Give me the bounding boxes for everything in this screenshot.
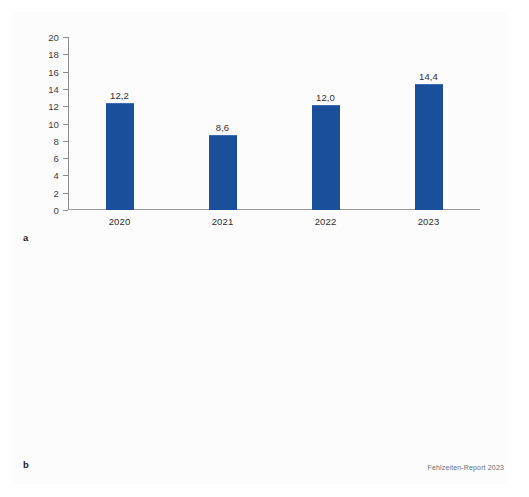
x-axis-category-label: 2022 xyxy=(315,216,337,227)
bar-group: 12,22020 xyxy=(68,37,171,210)
y-axis-tick-label: 2 xyxy=(54,187,59,198)
y-axis-tick-label: 14 xyxy=(48,83,59,94)
y-axis-tick-label: 18 xyxy=(48,49,59,60)
y-axis-tick-label: 12 xyxy=(48,101,59,112)
y-axis-tick-label: 10 xyxy=(48,118,59,129)
y-axis-tick-label: 20 xyxy=(48,32,59,43)
bar-value-label: 8,6 xyxy=(216,122,230,133)
bar-value-label: 14,4 xyxy=(419,71,438,82)
bar[interactable]: 12,2 xyxy=(106,103,134,210)
subfigure-label-a: a xyxy=(23,232,28,243)
x-axis-category-label: 2023 xyxy=(418,216,440,227)
y-axis-tick-label: 8 xyxy=(54,135,59,146)
bar[interactable]: 12,0 xyxy=(312,105,340,210)
bar-value-label: 12,0 xyxy=(316,92,335,103)
bar[interactable]: 8,6 xyxy=(209,135,237,210)
bar[interactable]: 14,4 xyxy=(415,84,443,210)
y-axis-tick-label: 6 xyxy=(54,153,59,164)
x-axis-category-label: 2021 xyxy=(212,216,234,227)
subfigure-label-b: b xyxy=(23,459,29,470)
y-axis-tick-label: 4 xyxy=(54,170,59,181)
y-axis-tick-label: 16 xyxy=(48,66,59,77)
bar-group: 14,42023 xyxy=(377,37,480,210)
plot-area-a: 02468101214161820 12,220208,6202112,0202… xyxy=(68,37,480,210)
bar-group: 12,02022 xyxy=(274,37,377,210)
source-note: Fehlzeiten-Report 2023 xyxy=(428,464,504,471)
bar-group: 8,62021 xyxy=(171,37,274,210)
chart-panel-b: 02468101214161820 16,0202014,6202117,220… xyxy=(0,253,529,497)
figure-root: 02468101214161820 12,220208,6202112,0202… xyxy=(0,0,529,497)
chart-panel-a: 02468101214161820 12,220208,6202112,0202… xyxy=(0,0,529,253)
y-axis-tick-label: 0 xyxy=(54,205,59,216)
x-axis-category-label: 2020 xyxy=(109,216,131,227)
y-axis-tick xyxy=(63,210,68,211)
bar-value-label: 12,2 xyxy=(110,90,129,101)
